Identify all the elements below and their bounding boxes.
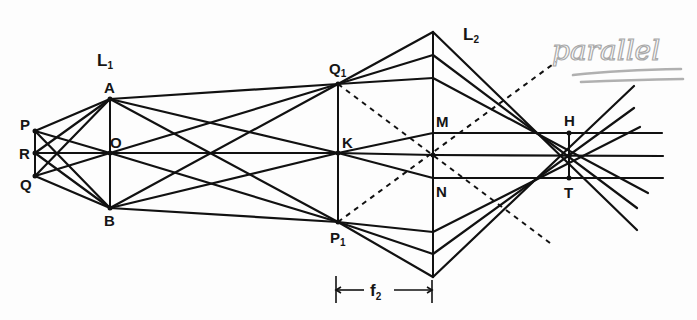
dashed-chief-rays [338, 62, 556, 243]
lens-l2-label: L2 [463, 25, 479, 45]
point-p-label: P [20, 116, 30, 133]
f2-label: f2 [370, 281, 382, 302]
point-q-label: Q [20, 176, 32, 193]
object-to-l1-rays [35, 99, 110, 208]
image-to-l2-rays [338, 32, 433, 277]
point-n-label: N [436, 183, 447, 200]
annotation-parallel-text: parallel [552, 34, 660, 67]
point-a-label: A [104, 79, 115, 96]
point-k-label: K [342, 134, 353, 151]
point-b-label: B [104, 212, 115, 229]
point-m-label: M [436, 113, 449, 130]
point-r-label: R [19, 145, 30, 162]
output-bundle-p1 [433, 86, 640, 277]
point-p1-label: P1 [330, 229, 346, 248]
focal-length-f2-dimension: f2 [336, 276, 432, 303]
lens-l1-label: L1 [97, 51, 113, 71]
point-q1-label: Q1 [329, 60, 347, 79]
handwritten-annotation: parallel [552, 34, 683, 82]
point-h-label: H [564, 112, 575, 129]
optical-ray-diagram: f2 L1 L2 P R Q A O B Q1 K P1 M N H T par… [0, 0, 697, 320]
point-o-label: O [110, 134, 122, 151]
point-t-label: T [564, 184, 573, 201]
l1-to-image-rays [110, 84, 338, 222]
